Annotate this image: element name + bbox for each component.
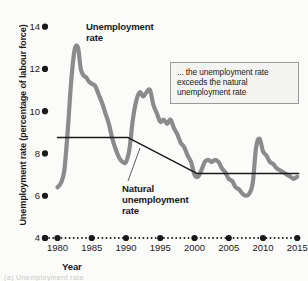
x-axis-dot — [126, 237, 128, 239]
x-axis-dot — [179, 237, 181, 239]
x-axis-dot — [56, 237, 58, 239]
x-axis-dot — [212, 237, 214, 239]
x-tick-label: 2000 — [184, 242, 205, 253]
x-axis-dot — [241, 237, 243, 239]
x-axis-dot — [188, 237, 190, 239]
x-axis-dot — [229, 237, 231, 239]
x-axis-dot — [261, 237, 263, 239]
x-axis-dot — [118, 237, 120, 239]
series-label-natural-line1: Natural — [122, 183, 188, 194]
y-tick-dot — [42, 150, 48, 156]
y-tick-label: 14 — [29, 21, 40, 32]
x-axis-dot — [192, 237, 194, 239]
series-label-unemployment-line2: rate — [86, 32, 154, 43]
x-axis-label: Year — [62, 261, 82, 272]
x-axis-dot — [60, 237, 62, 239]
x-axis-dot — [155, 237, 157, 239]
x-axis-dot — [77, 237, 79, 239]
x-axis-dot — [208, 237, 210, 239]
x-axis-dot — [245, 237, 247, 239]
x-axis-dot — [290, 237, 292, 239]
x-axis-dot — [224, 237, 226, 239]
x-axis-dotted-line — [44, 237, 300, 239]
x-axis-dot — [69, 237, 71, 239]
x-axis-dot — [81, 237, 83, 239]
x-axis-dot — [44, 237, 46, 239]
series-label-natural-line3: rate — [122, 205, 188, 216]
y-axis-ticks: 468101214 — [29, 21, 48, 243]
x-axis-dot — [159, 237, 161, 239]
y-tick-label: 4 — [35, 232, 40, 243]
chart-plot-area: 468101214 198019851990199520002005201020… — [0, 0, 308, 281]
x-axis-dot — [282, 237, 284, 239]
x-axis-dot — [216, 237, 218, 239]
x-axis-dot — [286, 237, 288, 239]
y-tick-label: 6 — [35, 190, 40, 201]
x-axis-dot — [196, 237, 198, 239]
x-axis-dot — [163, 237, 165, 239]
x-axis-dot — [89, 237, 91, 239]
x-axis-dot — [142, 237, 144, 239]
x-axis-dot — [93, 237, 95, 239]
series-label-unemployment: Unemployment rate — [86, 21, 154, 43]
x-axis-dot — [171, 237, 173, 239]
x-axis-dot — [294, 237, 296, 239]
x-axis-dot — [298, 237, 300, 239]
x-axis-dot — [237, 237, 239, 239]
y-tick-label: 12 — [29, 63, 40, 74]
x-tick-label: 1995 — [150, 242, 171, 253]
x-axis-dot — [249, 237, 251, 239]
y-tick-dot — [42, 66, 48, 72]
x-axis-dot — [122, 237, 124, 239]
y-tick-dot — [42, 24, 48, 30]
x-axis-dot — [110, 237, 112, 239]
x-axis-dot — [270, 237, 272, 239]
x-axis-dot — [147, 237, 149, 239]
x-axis-dot — [204, 237, 206, 239]
x-axis-dot — [48, 237, 50, 239]
x-axis-dot — [257, 237, 259, 239]
x-axis-dot — [138, 237, 140, 239]
x-axis-dot — [183, 237, 185, 239]
x-axis-dot — [175, 237, 177, 239]
x-tick-label: 2015 — [287, 242, 308, 253]
series-label-natural-line2: unemployment — [122, 194, 188, 205]
chart-root: Unemployment rate (percentage of labour … — [0, 0, 308, 281]
x-axis-dot — [220, 237, 222, 239]
x-axis-dot — [101, 237, 103, 239]
y-tick-label: 10 — [29, 106, 40, 117]
x-axis-dot — [265, 237, 267, 239]
x-axis-dot — [97, 237, 99, 239]
x-tick-label: 1980 — [47, 242, 68, 253]
x-axis-dot — [200, 237, 202, 239]
x-axis-dot — [151, 237, 153, 239]
x-tick-label: 2010 — [252, 242, 273, 253]
series-label-unemployment-line1: Unemployment — [86, 21, 154, 32]
x-axis-dot — [73, 237, 75, 239]
y-tick-label: 8 — [35, 148, 40, 159]
x-axis-dot — [106, 237, 108, 239]
x-axis-dot — [253, 237, 255, 239]
x-tick-label: 1985 — [81, 242, 102, 253]
x-axis-dot — [233, 237, 235, 239]
x-axis-dot — [134, 237, 136, 239]
callout-box: ... the unemployment rate exceeds the na… — [170, 62, 299, 104]
x-tick-label: 2005 — [218, 242, 239, 253]
series-label-natural: Natural unemployment rate — [122, 183, 188, 216]
x-axis-dot — [52, 237, 54, 239]
x-axis-dot — [65, 237, 67, 239]
x-axis-dot — [274, 237, 276, 239]
x-axis-dot — [114, 237, 116, 239]
y-tick-dot — [42, 108, 48, 114]
x-axis-dot — [167, 237, 169, 239]
x-axis-dot — [130, 237, 132, 239]
y-tick-dot — [42, 193, 48, 199]
x-axis-dot — [278, 237, 280, 239]
x-axis-dot — [85, 237, 87, 239]
x-tick-label: 1990 — [115, 242, 136, 253]
bottom-caption: (a) Unemployment rate — [0, 274, 308, 281]
